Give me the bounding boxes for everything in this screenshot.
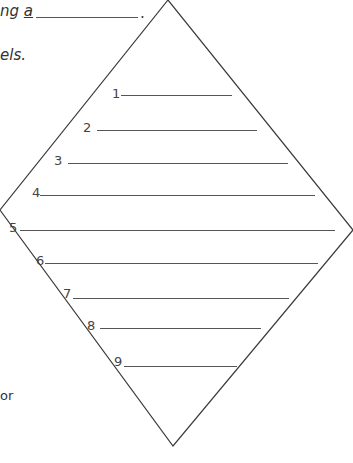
answer-line-1[interactable] — [121, 95, 232, 96]
underlined-word: a — [24, 2, 33, 20]
answer-line-8[interactable] — [100, 328, 261, 329]
row-number-5: 5 — [9, 221, 17, 234]
answer-line-5[interactable] — [20, 230, 335, 231]
answer-line-9[interactable] — [124, 366, 237, 367]
row-number-8: 8 — [87, 319, 95, 332]
row-number-7: 7 — [63, 287, 71, 300]
row-number-3: 3 — [54, 154, 62, 167]
row-number-2: 2 — [83, 121, 91, 134]
instruction-text-fragment: ng a — [0, 4, 33, 19]
answer-line-4[interactable] — [40, 195, 315, 196]
instruction-text-fragment-3: or — [0, 389, 13, 402]
answer-line-3[interactable] — [68, 163, 288, 164]
answer-line-6[interactable] — [45, 263, 318, 264]
diamond-shape — [0, 0, 353, 463]
instruction-text-fragment-2: els. — [0, 48, 26, 63]
text-fragment: ng — [0, 2, 24, 20]
period: . — [140, 6, 145, 21]
row-number-1: 1 — [112, 87, 120, 100]
row-number-6: 6 — [36, 254, 44, 267]
title-blank-line[interactable] — [36, 17, 138, 18]
row-number-9: 9 — [114, 355, 122, 368]
answer-line-7[interactable] — [73, 298, 289, 299]
row-number-4: 4 — [32, 186, 40, 199]
answer-line-2[interactable] — [97, 130, 257, 131]
